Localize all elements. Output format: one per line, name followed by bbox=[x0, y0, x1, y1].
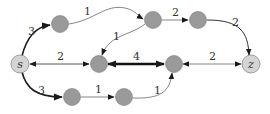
graph-diagram: 3 1 1 2 2 2 4 2 3 1 1 s z bbox=[0, 0, 270, 114]
weight-label-a-b: 1 bbox=[84, 5, 91, 18]
node-label-s: s bbox=[17, 58, 23, 71]
weight-label-c-z: 2 bbox=[232, 16, 239, 29]
node-f bbox=[64, 89, 81, 106]
weight-label-g-e: 1 bbox=[154, 84, 161, 97]
weight-label-s-f: 3 bbox=[38, 84, 45, 97]
node-label-z: z bbox=[247, 58, 254, 71]
node-c bbox=[190, 12, 207, 29]
weight-label-b-c: 2 bbox=[172, 6, 179, 19]
weight-label-f-g: 1 bbox=[95, 83, 102, 96]
weight-label-s-a: 3 bbox=[28, 25, 35, 38]
edge-g-e bbox=[133, 73, 172, 98]
edge-s-a bbox=[22, 25, 50, 56]
node-d bbox=[91, 56, 108, 73]
edge-a-b bbox=[69, 7, 143, 24]
weight-label-e-z: 2 bbox=[209, 50, 216, 63]
weight-label-b-d: 1 bbox=[113, 30, 120, 43]
node-e bbox=[166, 56, 183, 73]
weight-label-d-e: 4 bbox=[133, 50, 140, 63]
weight-label-s-d: 2 bbox=[57, 50, 64, 63]
node-a bbox=[52, 16, 69, 33]
node-g bbox=[116, 89, 133, 106]
node-b bbox=[145, 12, 162, 29]
